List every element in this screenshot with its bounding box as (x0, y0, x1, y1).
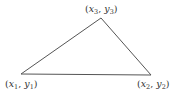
vertex-3-label: (x3, y3) (85, 3, 118, 16)
vertex-2-label: (x2, y2) (137, 78, 170, 91)
triangle-diagram: (x3, y3) (x1, y1) (x2, y2) (0, 0, 174, 98)
vertex-1-label: (x1, y1) (5, 78, 38, 91)
triangle-shape (21, 18, 151, 75)
